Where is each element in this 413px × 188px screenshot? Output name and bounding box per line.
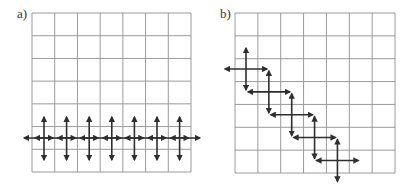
panel-b-arrows: [225, 48, 358, 181]
panel-a-arrows: [24, 117, 200, 160]
diagram-canvas: [0, 0, 413, 188]
